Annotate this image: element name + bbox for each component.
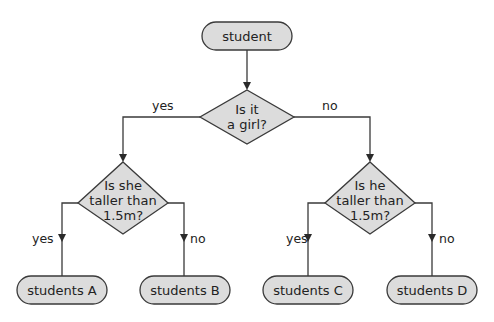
arrow-down-icon — [58, 234, 66, 242]
branch-no-label: no — [322, 98, 338, 113]
leaf-label: students C — [273, 283, 343, 298]
decision-right-line2: taller than — [336, 193, 403, 208]
connector-no — [294, 117, 370, 158]
leaf-label: students D — [397, 283, 468, 298]
branch-yes-label: yes — [152, 98, 174, 113]
arrow-down-icon — [243, 82, 251, 90]
flowchart: student Is it a girl? yes no Is she tall… — [0, 0, 494, 322]
arrow-down-icon — [180, 234, 188, 242]
decision-left-line1: Is she — [104, 178, 142, 193]
leaf-label: students A — [27, 283, 97, 298]
arrow-down-icon — [366, 154, 374, 162]
branch-left-yes-label: yes — [32, 231, 54, 246]
connector-left-no — [168, 203, 184, 276]
decision-right: Is he taller than 1.5m? — [325, 162, 415, 234]
connector-right-no — [415, 203, 432, 276]
decision-left: Is she taller than 1.5m? — [78, 162, 168, 234]
connector-yes — [123, 117, 200, 158]
decision-main-line2: a girl? — [227, 117, 267, 132]
root-label: student — [222, 29, 272, 44]
arrow-down-icon — [119, 154, 127, 162]
decision-left-line2: taller than — [89, 193, 156, 208]
leaf-students-c: students C — [263, 276, 353, 304]
branch-right-no-label: no — [439, 231, 455, 246]
decision-right-line3: 1.5m? — [350, 208, 390, 223]
branch-right-yes-label: yes — [286, 231, 308, 246]
leaf-students-d: students D — [387, 276, 477, 304]
decision-right-line1: Is he — [355, 178, 386, 193]
leaf-students-b: students B — [140, 276, 230, 304]
root-node: student — [202, 22, 292, 50]
decision-main-line1: Is it — [235, 102, 258, 117]
connector-right-yes — [308, 203, 325, 276]
decision-main: Is it a girl? — [200, 90, 294, 144]
leaf-label: students B — [150, 283, 220, 298]
decision-left-line3: 1.5m? — [103, 208, 143, 223]
arrow-down-icon — [428, 234, 436, 242]
leaf-students-a: students A — [17, 276, 107, 304]
connector-left-yes — [62, 203, 78, 276]
branch-left-no-label: no — [190, 231, 206, 246]
